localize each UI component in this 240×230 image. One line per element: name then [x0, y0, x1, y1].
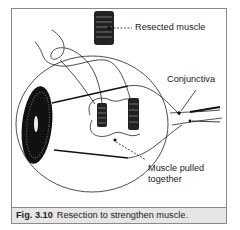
- label-conjunctiva: Conjunctiva: [167, 74, 215, 85]
- cornea-icon: [18, 85, 56, 166]
- label-muscle-pulled-together-line2: together: [148, 174, 182, 185]
- figure-caption-text: Resection to strengthen muscle.: [57, 210, 188, 220]
- label-muscle-pulled-together-line1: Muscle pulled: [148, 163, 204, 174]
- muscle-stump-left: [97, 103, 107, 127]
- figure-caption: Fig. 3.10Resection to strengthen muscle.: [12, 207, 226, 223]
- figure-number: Fig. 3.10: [16, 210, 53, 220]
- label-resected-muscle: Resected muscle: [135, 22, 205, 33]
- eye-resection-illustration: [0, 0, 240, 230]
- muscle-stump-right: [128, 98, 139, 130]
